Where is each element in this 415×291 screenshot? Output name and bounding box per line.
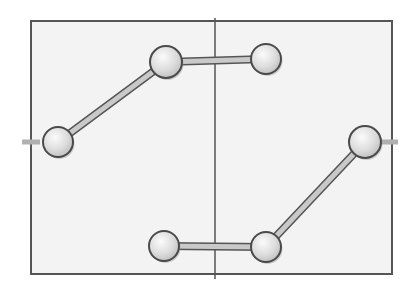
node-ball [349, 126, 381, 158]
node-ball [150, 46, 182, 78]
sketch-diagram [0, 0, 415, 291]
node-ball [43, 127, 73, 157]
node-ball [149, 231, 179, 261]
node-ball [251, 232, 281, 262]
node-ball [251, 44, 281, 74]
